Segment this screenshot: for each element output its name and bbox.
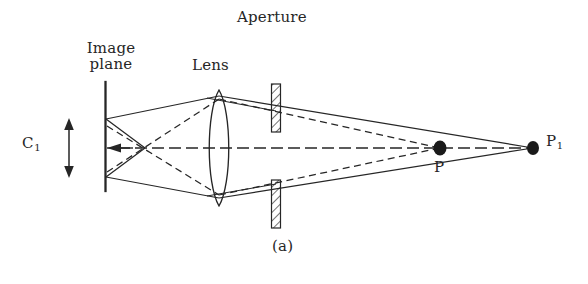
figure-caption: (a) xyxy=(272,239,293,255)
point-p1-label-base: P xyxy=(546,132,556,150)
blur-circle-arrowhead xyxy=(107,144,133,153)
solid-ray-upper-right xyxy=(219,96,533,148)
caustic-upper xyxy=(106,119,145,148)
c1-arrow-head-down xyxy=(64,166,74,178)
solid-ray-lower-right xyxy=(219,148,533,198)
optics-figure: Image plane Lens Aperture C1 P P1 (a) xyxy=(0,0,588,284)
dashed-ray-lower-left xyxy=(107,126,219,195)
dashed-ray-upper-left xyxy=(107,99,219,172)
lens-label: Lens xyxy=(192,58,229,74)
blur-extent-double-arrow xyxy=(64,118,74,178)
blur-circle-label: C1 xyxy=(22,136,40,152)
solid-ray-lower-left xyxy=(106,177,219,198)
solid-ray-bundle xyxy=(106,96,533,198)
blur-circle-label-sub: 1 xyxy=(34,142,41,153)
aperture-top-blade xyxy=(272,84,281,132)
image-plane-label: Image plane xyxy=(72,41,150,73)
solid-ray-upper-left xyxy=(106,96,219,119)
caustic-lower xyxy=(106,148,145,177)
aperture-label: Aperture xyxy=(237,10,307,26)
point-p1-label: P1 xyxy=(546,134,563,150)
point-p-label: P xyxy=(434,160,444,176)
lens-edge-chords xyxy=(207,98,276,196)
aperture-stop xyxy=(272,84,281,228)
image-plane-label-line2: plane xyxy=(72,57,150,73)
aperture-bottom-blade xyxy=(272,180,281,228)
point-p-dot-icon xyxy=(434,141,447,156)
point-p1-label-sub: 1 xyxy=(557,140,564,151)
point-p1-dot-icon xyxy=(527,141,539,155)
c1-arrow-head-up xyxy=(64,118,74,130)
blur-circle-label-base: C xyxy=(22,134,34,152)
